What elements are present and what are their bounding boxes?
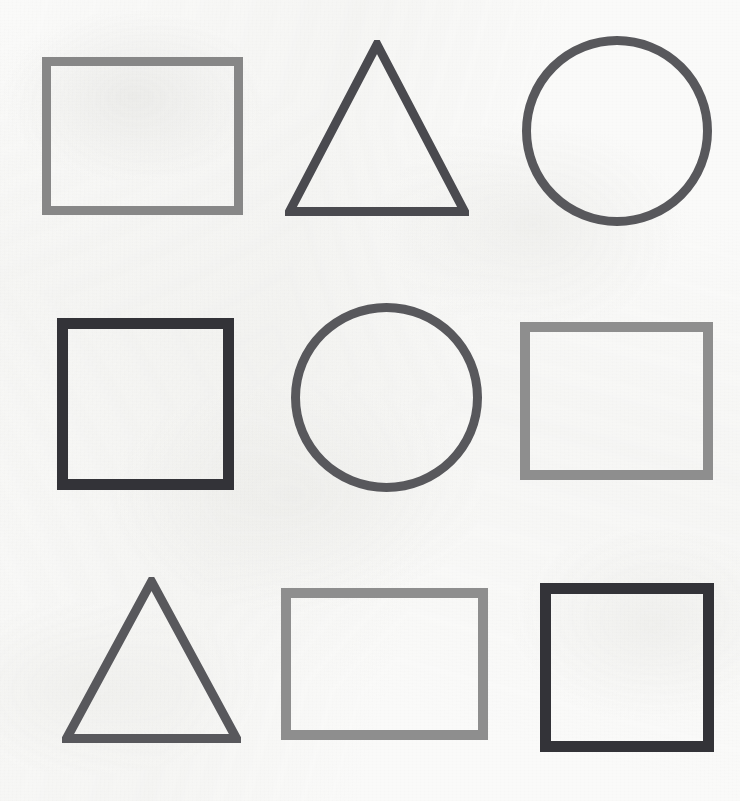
shape-square-r3c3 — [540, 583, 714, 752]
shape-circle-r2c2 — [291, 303, 482, 492]
shape-layer — [0, 0, 740, 801]
shape-circle-r1c3 — [522, 36, 712, 226]
shape-triangle-r3c1 — [62, 577, 241, 743]
triangle-outline — [62, 577, 241, 743]
triangle-outline — [285, 40, 469, 216]
shape-triangle-r1c2 — [285, 40, 469, 216]
shapes-canvas — [0, 0, 740, 801]
shape-rectangle-r1c1 — [42, 57, 243, 215]
shape-square-r2c1 — [57, 318, 234, 490]
shape-rectangle-r3c2 — [281, 588, 488, 740]
shape-rectangle-r2c3 — [520, 322, 713, 480]
